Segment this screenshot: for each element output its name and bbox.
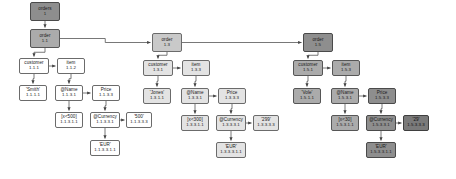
tree-node-id: 1.3.3.1 [188, 96, 202, 101]
tree-node-eur15[interactable]: 'EUR'1.5.3.3.1.1 [366, 142, 396, 158]
edge-cust11-to-smith [33, 74, 34, 84]
tree-node-eur11[interactable]: 'EUR'1.1.3.3.1.1 [90, 140, 120, 156]
edge-item13-to-name13 [195, 76, 196, 87]
tree-node-id: 1.3.1 [153, 68, 163, 73]
tree-node-id: 1.1.1.1 [26, 93, 40, 98]
tree-node-id: 1.3.3.3 [225, 96, 239, 101]
tree-node-id: 1.5.3.3 [375, 96, 389, 101]
tree-node-v29[interactable]: '29'1.5.3.3.3 [403, 115, 429, 131]
tree-node-id: 1 [44, 12, 47, 17]
tree-node-root[interactable]: orders1 [30, 2, 60, 21]
tree-node-o13[interactable]: order1.3 [152, 33, 182, 52]
tree-node-id: 1.5.3.3.3 [407, 123, 425, 128]
tree-node-v500[interactable]: '500'1.1.3.3.3 [126, 112, 152, 128]
edge-price15-to-curr15 [381, 104, 382, 114]
tree-node-jones[interactable]: 'Jones'1.3.1.1 [143, 88, 171, 104]
tree-node-id: 1.5.3.3.1 [372, 123, 390, 128]
tree-node-id: 1.3.3.3.1.1 [220, 150, 241, 155]
edge-cust15-to-vole [307, 76, 308, 87]
tree-node-id: 1.3.3 [191, 68, 201, 73]
tree-node-id: 1.3.3.3.3 [257, 123, 275, 128]
tree-node-name13[interactable]: @Name1.3.3.1 [181, 88, 209, 104]
edge-item11-to-name11 [69, 74, 71, 84]
tree-node-id: 1.5.3.1 [338, 96, 352, 101]
tree-node-v299[interactable]: '299'1.3.3.3.3 [253, 115, 279, 131]
edge-o11-to-cust11 [34, 48, 45, 57]
edge-o13-to-cust13 [158, 52, 167, 59]
tree-node-id: 1.3 [164, 43, 170, 48]
tree-node-name11[interactable]: @Name1.1.3.1 [55, 85, 83, 101]
tree-node-id: 1.5.3 [341, 68, 351, 73]
tree-node-id: 1.1.3.3.1.1 [94, 148, 115, 153]
tree-node-item15[interactable]: item1.5.3 [332, 60, 360, 76]
edge-price13-to-curr13 [231, 104, 232, 114]
tree-node-item13[interactable]: item1.3.3 [182, 60, 210, 76]
tree-node-price15[interactable]: Price1.5.3.3 [368, 88, 396, 104]
tree-node-cust15[interactable]: customer1.5.1 [293, 60, 323, 76]
tree-node-id: 1.1 [42, 39, 48, 44]
tree-node-id: 1.1.3.1 [62, 93, 76, 98]
tree-node-eur13[interactable]: 'EUR'1.3.3.3.1.1 [216, 142, 246, 158]
tree-node-vole[interactable]: 'Vole'1.5.1.1 [293, 88, 321, 104]
tree-node-smith[interactable]: 'Smith'1.1.1.1 [19, 85, 47, 101]
tree-node-x30[interactable]: [x<30]1.5.3.1.1 [331, 115, 359, 131]
tree-node-id: 1.3.3.1.1 [186, 123, 204, 128]
tree-node-id: 1.3.1.1 [150, 96, 164, 101]
tree-node-id: 1.1.3.3.3 [130, 120, 148, 125]
tree-node-curr15[interactable]: @Currency1.5.3.3.1 [366, 115, 396, 131]
tree-node-cust11[interactable]: customer1.1.1 [19, 58, 49, 74]
edge-o11-to-o13 [60, 39, 151, 43]
tree-node-id: 1.3.3.3.1 [222, 123, 240, 128]
tree-node-id: 1.1.3.3.1 [96, 120, 114, 125]
diagram-canvas: orders1order1.1customer1.1.1item1.1.2'Sm… [0, 0, 456, 179]
edge-cust13-to-jones [157, 76, 158, 87]
tree-node-item11[interactable]: item1.1.2 [57, 58, 85, 74]
tree-node-cust13[interactable]: customer1.3.1 [143, 60, 173, 76]
tree-node-id: 1.5.3.1.1 [336, 123, 354, 128]
tree-node-name15[interactable]: @Name1.5.3.1 [331, 88, 359, 104]
tree-node-id: 1.1.2 [66, 66, 76, 71]
tree-node-curr13[interactable]: @Currency1.3.3.3.1 [216, 115, 246, 131]
tree-node-price11[interactable]: Price1.1.3.3 [92, 85, 120, 101]
edge-item15-to-name15 [345, 76, 346, 87]
tree-node-o15[interactable]: order1.5 [303, 33, 333, 52]
edge-o15-to-cust15 [308, 52, 318, 59]
tree-node-id: 1.1.1 [29, 66, 39, 71]
tree-node-x300[interactable]: [x<300]1.3.3.1.1 [181, 115, 209, 131]
edge-price11-to-curr11 [105, 101, 106, 111]
tree-node-x500[interactable]: [x<500]1.1.3.1.1 [55, 112, 83, 128]
tree-node-o11[interactable]: order1.1 [30, 29, 60, 48]
tree-node-id: 1.1.3.3 [99, 93, 113, 98]
tree-node-id: 1.5.3.3.1.1 [370, 150, 391, 155]
tree-node-price13[interactable]: Price1.3.3.3 [218, 88, 246, 104]
tree-node-id: 1.5 [315, 43, 321, 48]
tree-node-id: 1.1.3.1.1 [60, 120, 78, 125]
tree-node-id: 1.5.1 [303, 68, 313, 73]
tree-node-id: 1.5.1.1 [300, 96, 314, 101]
tree-node-curr11[interactable]: @Currency1.1.3.3.1 [90, 112, 120, 128]
